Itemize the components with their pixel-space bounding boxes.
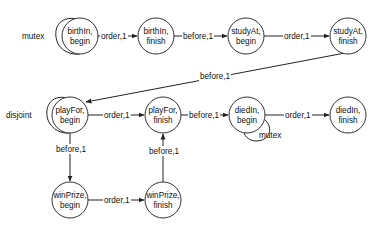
edge-label: order,1	[104, 196, 130, 205]
node-diedin-finish: diedIn, finish	[330, 97, 366, 133]
node-label-line2: begin	[70, 37, 90, 46]
edge-label-mutex: mutex	[22, 32, 44, 41]
edge-playfor-order: order,1	[88, 110, 144, 120]
node-label-line1: diedIn,	[235, 106, 260, 115]
node-studyat-begin: studyAt, begin	[228, 18, 264, 54]
node-studyat-finish: studyAt, finish	[330, 18, 366, 54]
edge-diedin-order: order,1	[265, 110, 329, 120]
node-label-line1: birthIn,	[143, 27, 168, 36]
edge-label-disjoint: disjoint	[6, 111, 32, 120]
node-label-line2: begin	[60, 116, 80, 125]
node-label-line2: finish	[153, 201, 173, 210]
node-label-line1: playFor,	[148, 106, 177, 115]
edge-playfor-diedin-before: before,1	[181, 110, 228, 120]
edge-birthin-studyat-before: before,1	[174, 31, 227, 41]
edge-label: order,1	[285, 111, 311, 120]
node-label-line1: birthIn,	[67, 27, 92, 36]
edge-label: before,1	[149, 147, 179, 156]
node-label-line2: finish	[153, 116, 173, 125]
node-label-line1: studyAt,	[231, 27, 261, 36]
edge-label: before,1	[189, 111, 219, 120]
node-label-line2: finish	[338, 116, 358, 125]
node-label-line1: playFor,	[55, 106, 84, 115]
node-playfor-finish: playFor, finish	[145, 97, 181, 133]
node-playfor-begin: playFor, begin	[52, 97, 88, 133]
node-label-line1: winPrize,	[145, 191, 179, 200]
node-winprize-begin: winPrize, begin	[52, 182, 88, 218]
edge-label: before,1	[183, 32, 213, 41]
edge-label: order,1	[104, 111, 130, 120]
node-diedin-begin: diedIn, begin	[229, 97, 265, 133]
edge-label: before,1	[56, 145, 86, 154]
node-birthin-begin: birthIn, begin	[62, 18, 98, 54]
edge-winprize-playfor-before: before,1	[148, 134, 180, 182]
edge-label: before,1	[200, 72, 230, 81]
node-label-line2: finish	[146, 37, 166, 46]
node-label-line1: studyAt,	[333, 27, 363, 36]
edge-winprize-order: order,1	[88, 195, 144, 205]
node-birthin-finish: birthIn, finish	[138, 18, 174, 54]
edge-studyat-playfor-before: before,1	[86, 53, 345, 102]
edge-label-mutex-2: mutex	[259, 131, 281, 140]
node-label-line2: begin	[60, 201, 80, 210]
node-label-line1: winPrize,	[52, 191, 86, 200]
edge-label: order,1	[101, 32, 127, 41]
node-label-line2: finish	[338, 37, 358, 46]
edge-label: order,1	[284, 32, 310, 41]
node-label-line2: begin	[236, 37, 256, 46]
edge-playfor-winprize-before: before,1	[55, 133, 87, 181]
edge-birthin-order: order,1	[98, 31, 137, 41]
node-winprize-finish: winPrize, finish	[145, 182, 181, 218]
diagram-canvas: mutex disjoint mutex order,1 before,1 or…	[0, 0, 382, 229]
edge-studyat-order: order,1	[264, 31, 329, 41]
node-label-line2: begin	[237, 116, 257, 125]
node-label-line1: diedIn,	[336, 106, 361, 115]
